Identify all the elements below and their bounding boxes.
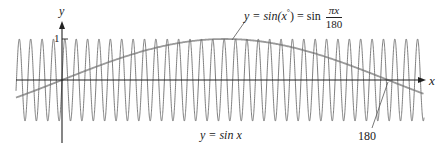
label-sin-degrees-lhs: y = sin(: [244, 9, 281, 23]
label-sin-x: y = sin x: [200, 129, 242, 141]
y-axis-arrow-icon: [59, 21, 65, 29]
x-axis-label: x: [429, 74, 435, 87]
y-axis-label: y: [59, 5, 64, 17]
x-axis-arrow-icon: [418, 77, 426, 83]
label-x-180: 180: [358, 130, 376, 142]
label-sin-degrees-mid: ) = sin: [290, 9, 324, 23]
fraction-pi-x-over-180: πx180: [326, 5, 343, 30]
label-sin-degrees: y = sin(x°) = sin πx180: [244, 5, 342, 30]
fraction-denominator: 180: [326, 18, 343, 30]
y-tick-label-1: 1: [54, 33, 60, 44]
label-sin-x-text: y = sin x: [200, 128, 242, 142]
fraction-numerator: πx: [326, 5, 343, 18]
